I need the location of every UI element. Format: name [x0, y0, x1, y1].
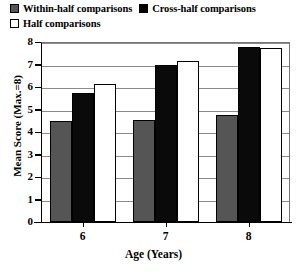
legend-row-bottom: Half comparisons [10, 16, 302, 31]
y-axis-tick-label: 0 [3, 216, 33, 227]
y-axis-tick-label: 8 [3, 36, 33, 47]
y-axis-tick [35, 132, 41, 134]
bar-group [41, 42, 124, 222]
bar [94, 84, 116, 222]
y-axis-tick [35, 222, 41, 224]
y-axis-tick [35, 177, 41, 179]
x-axis-tick [83, 222, 85, 227]
y-axis-title: Mean Score (Max.=8) [11, 51, 23, 201]
x-axis-tick-label: 7 [146, 230, 186, 242]
bar [260, 48, 282, 222]
y-axis-tick [35, 64, 41, 66]
bar [155, 65, 177, 223]
y-axis-tick [35, 199, 41, 201]
x-axis-tick-label: 8 [229, 230, 269, 242]
legend-item-cross-half: Cross-half comparisons [139, 3, 256, 14]
x-axis-tick [249, 222, 251, 227]
x-axis-title: Age (Years) [0, 248, 307, 260]
y-axis-tick [35, 42, 41, 44]
legend-label-half: Half comparisons [23, 18, 100, 29]
x-axis-tick-label: 6 [63, 230, 103, 242]
x-axis-tick [166, 222, 168, 227]
bars-layer [41, 42, 290, 222]
legend-swatch-icon-cross-half [139, 4, 148, 13]
bar-group [124, 42, 207, 222]
legend-label-cross-half: Cross-half comparisons [152, 3, 256, 14]
y-axis-tick [35, 109, 41, 111]
bar [133, 120, 155, 222]
bar [216, 115, 238, 222]
legend-label-within-half: Within-half comparisons [23, 3, 132, 14]
bar [72, 93, 94, 222]
chart-legend: Within-half comparisons Cross-half compa… [10, 1, 302, 31]
bar-chart: Within-half comparisons Cross-half compa… [0, 0, 307, 274]
bar [238, 47, 260, 223]
bar [50, 121, 72, 222]
y-axis-tick [35, 154, 41, 156]
legend-row-top: Within-half comparisons Cross-half compa… [10, 1, 302, 16]
bar-group [207, 42, 290, 222]
bar [177, 61, 199, 222]
y-axis-tick [35, 87, 41, 89]
